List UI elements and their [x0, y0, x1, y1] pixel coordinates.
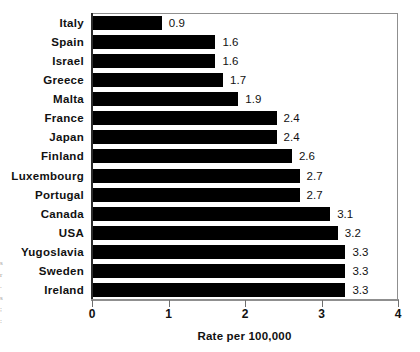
bar [93, 226, 338, 240]
x-tick-label: 4 [395, 307, 402, 321]
bar [93, 283, 345, 297]
x-tick-label: 3 [318, 307, 325, 321]
bar-value-label: 3.2 [345, 227, 361, 239]
bar-value-label: 2.4 [284, 112, 300, 124]
category-label: Japan [49, 131, 84, 143]
x-tick-mark [169, 300, 170, 307]
category-label: Portugal [35, 189, 84, 201]
bar-value-label: 1.7 [230, 74, 246, 86]
bar [93, 111, 277, 125]
bar-row: France2.4 [0, 109, 420, 128]
bar-row: Ireland3.3 [0, 281, 420, 300]
bar [93, 207, 330, 221]
category-label: Sweden [39, 265, 84, 277]
bar-row: Malta1.9 [0, 90, 420, 109]
bar [93, 149, 292, 163]
bar-rows: Italy0.9Spain1.6Israel1.6Greece1.7Malta1… [0, 13, 420, 300]
bar-value-label: 2.4 [284, 131, 300, 143]
x-tick-label: 2 [242, 307, 249, 321]
bar-row: Luxembourg2.7 [0, 166, 420, 185]
x-tick-mark [245, 300, 246, 307]
category-label: Canada [41, 208, 84, 220]
bar-value-label: 1.9 [245, 93, 261, 105]
x-tick-mark [398, 300, 399, 307]
bar [93, 54, 215, 68]
bar [93, 188, 300, 202]
bar-row: Greece1.7 [0, 70, 420, 89]
category-label: Greece [43, 74, 84, 86]
bar-value-label: 3.1 [337, 208, 353, 220]
bar-row: Spain1.6 [0, 32, 420, 51]
category-label: Ireland [44, 284, 84, 296]
category-label: Finland [41, 150, 84, 162]
bar [93, 35, 215, 49]
bar-row: USA3.2 [0, 223, 420, 242]
category-label: France [44, 112, 84, 124]
category-label: Yugoslavia [21, 246, 84, 258]
bar [93, 264, 345, 278]
bar-row: Portugal2.7 [0, 185, 420, 204]
bar-value-label: 3.3 [352, 284, 368, 296]
bar [93, 92, 238, 106]
bar-value-label: 2.6 [299, 150, 315, 162]
bar-row: Sweden3.3 [0, 262, 420, 281]
x-tick-label: 1 [165, 307, 172, 321]
bar-row: Japan2.4 [0, 128, 420, 147]
category-label: Spain [51, 36, 84, 48]
bar-row: Italy0.9 [0, 13, 420, 32]
bar-row: Finland2.6 [0, 147, 420, 166]
bar [93, 130, 277, 144]
bar-row: Israel1.6 [0, 51, 420, 70]
bar [93, 16, 162, 30]
category-label: Malta [53, 93, 84, 105]
bar [93, 169, 300, 183]
x-axis-ticks: 01234 [0, 300, 420, 320]
bar-value-label: 0.9 [169, 17, 185, 29]
x-tick-mark [322, 300, 323, 307]
bar-value-label: 1.6 [222, 36, 238, 48]
bar [93, 245, 345, 259]
bar-row: Canada3.1 [0, 204, 420, 223]
category-label: Luxembourg [11, 170, 84, 182]
bar-value-label: 2.7 [307, 189, 323, 201]
bar-value-label: 1.6 [222, 55, 238, 67]
category-label: Israel [52, 55, 84, 67]
bar-value-label: 2.7 [307, 170, 323, 182]
x-axis-title: Rate per 100,000 [91, 330, 398, 342]
category-label: Italy [59, 17, 84, 29]
x-tick-label: 0 [89, 307, 96, 321]
bar [93, 73, 223, 87]
bar-value-label: 3.3 [352, 246, 368, 258]
category-label: USA [59, 227, 84, 239]
bar-value-label: 3.3 [352, 265, 368, 277]
bar-chart: sr.s;: Italy0.9Spain1.6Israel1.6Greece1.… [0, 0, 420, 352]
bar-row: Yugoslavia3.3 [0, 243, 420, 262]
x-tick-mark [92, 300, 93, 307]
